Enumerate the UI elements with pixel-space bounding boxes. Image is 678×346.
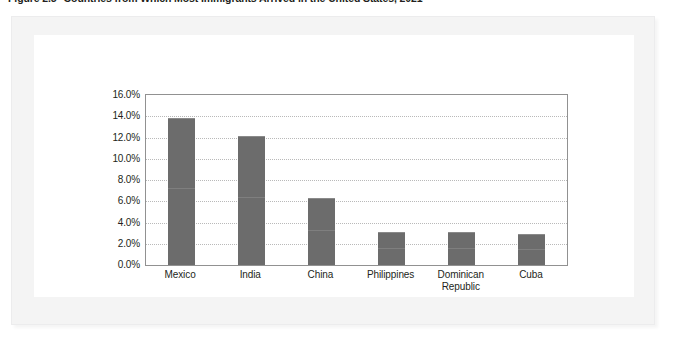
bar-philippines (378, 232, 405, 265)
bar-india (238, 136, 265, 265)
plot-area (145, 94, 568, 266)
figure-number: Figure 2.5 (8, 0, 57, 4)
y-axis-tick-label: 12.0% (112, 131, 140, 142)
y-axis-tick-label: 0.0% (118, 259, 140, 270)
y-axis-tick-label: 2.0% (118, 237, 140, 248)
bar-mexico (168, 118, 195, 265)
x-axis-tick-label: India (215, 269, 285, 281)
x-axis-tick-label: Mexico (145, 269, 215, 281)
x-axis-tick-label: Dominican Republic (426, 269, 496, 292)
bar-dominican-republic (448, 232, 475, 265)
x-axis-tick-label: Philippines (356, 269, 426, 281)
y-axis-tick-label: 14.0% (112, 110, 140, 121)
y-axis-tick-label: 16.0% (112, 89, 140, 100)
x-axis-tick-label: Cuba (496, 269, 566, 281)
y-axis-tick-label: 4.0% (118, 216, 140, 227)
y-axis: 0.0%2.0%4.0%6.0%8.0%10.0%12.0%14.0%16.0% (72, 94, 140, 266)
chart-canvas: 0.0%2.0%4.0%6.0%8.0%10.0%12.0%14.0%16.0%… (34, 35, 634, 297)
y-axis-tick-label: 6.0% (118, 195, 140, 206)
bar-china (308, 198, 335, 265)
x-axis-tick-label: China (285, 269, 355, 281)
y-axis-tick-label: 8.0% (118, 174, 140, 185)
y-axis-tick-label: 10.0% (112, 152, 140, 163)
figure-caption: Figure 2.5Countries from Which Most Immi… (8, 0, 668, 8)
figure-title: Countries from Which Most Immigrants Arr… (64, 0, 423, 4)
figure-panel: 0.0%2.0%4.0%6.0%8.0%10.0%12.0%14.0%16.0%… (11, 16, 655, 325)
bar-series (146, 95, 567, 265)
bar-cuba (518, 234, 545, 265)
x-axis: MexicoIndiaChinaPhilippinesDominican Rep… (145, 269, 568, 299)
